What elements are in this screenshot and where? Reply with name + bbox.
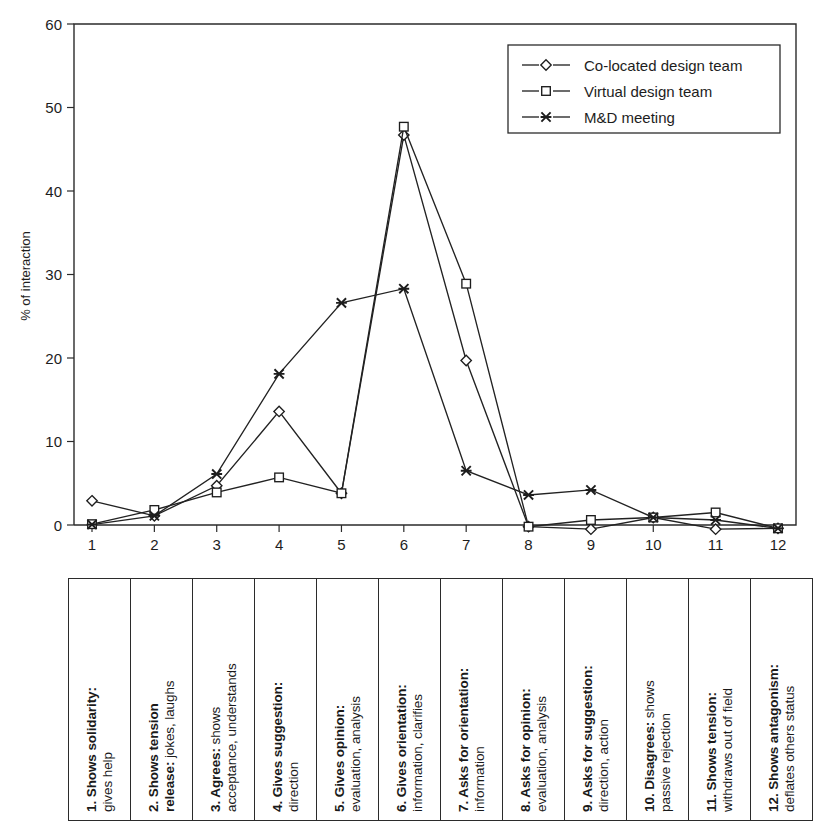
- y-tick-label: 20: [45, 350, 62, 367]
- category-number-line1: 10. Disagrees: shows: [641, 680, 657, 812]
- series-line-1: [92, 135, 778, 529]
- marker-diamond-1-7: [461, 355, 471, 365]
- category-description: gives help: [100, 687, 116, 812]
- series-line-3: [92, 289, 778, 529]
- x-tick-label: 9: [587, 536, 595, 553]
- x-tick-label: 5: [337, 536, 345, 553]
- category-number: 6. Gives orientation:: [393, 684, 409, 812]
- y-tick-label: 40: [45, 183, 62, 200]
- category-desc-line2: passive rejection: [658, 680, 674, 812]
- category-label-1: 1. Shows solidarity:gives help: [83, 687, 116, 812]
- y-axis-title: % of interaction: [18, 231, 33, 321]
- category-number: 1. Shows solidarity:: [83, 687, 99, 812]
- category-label-2: 2. Shows tensionrelease: jokes, laughs: [145, 681, 178, 812]
- x-tick-label: 2: [150, 536, 158, 553]
- category-cell-2: 2. Shows tensionrelease: jokes, laughs: [131, 579, 193, 820]
- category-cell-6: 6. Gives orientation:information, clarif…: [379, 579, 441, 820]
- category-number: 11. Shows tension:: [703, 688, 719, 812]
- marker-x-3-8: [523, 490, 534, 499]
- category-cell-3: 3. Agrees: showsacceptance, understands: [193, 579, 255, 820]
- y-tick-label: 10: [45, 433, 62, 450]
- category-label-4: 4. Gives suggestion:direction: [269, 682, 302, 812]
- category-number: 7. Asks for orientation:: [455, 668, 471, 812]
- category-cell-10: 10. Disagrees: showspassive rejection: [627, 579, 689, 820]
- figure-container: 0102030405060% of interaction12345678910…: [0, 0, 819, 835]
- series-line-2: [92, 127, 778, 529]
- category-label-3: 3. Agrees: showsacceptance, understands: [207, 663, 240, 812]
- category-label-10: 10. Disagrees: showspassive rejection: [641, 680, 674, 812]
- legend-label-3: M&D meeting: [584, 109, 675, 126]
- x-tick-label: 6: [400, 536, 408, 553]
- marker-square-2-3: [212, 488, 221, 497]
- marker-x-3-4: [274, 369, 285, 378]
- marker-x-3-9: [586, 485, 597, 494]
- y-axis: 0102030405060% of interaction: [18, 16, 74, 534]
- y-tick-label: 50: [45, 99, 62, 116]
- marker-diamond-1-1: [87, 496, 97, 506]
- y-tick-label: 30: [45, 266, 62, 283]
- category-label-8: 8. Asks for opinion:evaluation, analysis: [517, 688, 550, 812]
- category-description: direction, action: [596, 666, 612, 812]
- category-cell-5: 5. Gives opinion:evaluation, analysis: [317, 579, 379, 820]
- marker-square-2-5: [337, 489, 346, 498]
- category-definition-table: 1. Shows solidarity:gives help2. Shows t…: [68, 578, 813, 821]
- category-number: 12. Shows antagonism:: [765, 664, 781, 812]
- x-tick-label: 10: [645, 536, 662, 553]
- legend: Co-located design teamVirtual design tea…: [508, 45, 780, 133]
- series-3: [87, 284, 784, 533]
- category-label-7: 7. Asks for orientation:information: [455, 668, 488, 812]
- x-axis: 123456789101112: [88, 525, 787, 553]
- category-description: evaluation, analysis: [534, 688, 550, 812]
- category-number-line1: 2. Shows tension: [145, 681, 161, 812]
- marker-square-legend-2: [542, 87, 551, 96]
- category-description: withdraws out of field: [720, 688, 736, 812]
- x-tick-label: 1: [88, 536, 96, 553]
- category-cell-1: 1. Shows solidarity:gives help: [69, 579, 131, 820]
- category-label-9: 9. Asks for suggestion:direction, action: [579, 666, 612, 812]
- marker-square-2-8: [524, 522, 533, 531]
- category-cell-11: 11. Shows tension:withdraws out of field: [689, 579, 751, 820]
- marker-x-3-5: [336, 298, 347, 307]
- category-number-line2: release: jokes, laughs: [162, 681, 178, 812]
- legend-label-2: Virtual design team: [584, 83, 712, 100]
- series-1: [87, 130, 783, 535]
- category-label-12: 12. Shows antagonism:deflates others sta…: [765, 664, 798, 812]
- category-number: 8. Asks for opinion:: [517, 688, 533, 812]
- category-description: information: [472, 668, 488, 812]
- marker-square-2-11: [711, 508, 720, 517]
- category-description: evaluation, analysis: [348, 696, 364, 812]
- marker-square-2-9: [587, 516, 596, 525]
- category-number: 5. Gives opinion:: [331, 696, 347, 812]
- category-cell-12: 12. Shows antagonism:deflates others sta…: [751, 579, 812, 820]
- x-tick-label: 3: [213, 536, 221, 553]
- y-tick-label: 0: [54, 517, 62, 534]
- category-number: 4. Gives suggestion:: [269, 682, 285, 812]
- marker-x-3-7: [461, 466, 472, 475]
- category-number-line1: 3. Agrees: shows: [207, 663, 223, 812]
- category-label-6: 6. Gives orientation:information, clarif…: [393, 684, 426, 812]
- x-tick-label: 12: [770, 536, 787, 553]
- category-description: direction: [286, 682, 302, 812]
- category-cell-7: 7. Asks for orientation:information: [441, 579, 503, 820]
- category-desc-line2: acceptance, understands: [224, 663, 240, 812]
- category-description: deflates others status: [782, 664, 798, 812]
- category-description: information, clarifies: [410, 684, 426, 812]
- series-2: [88, 122, 783, 532]
- x-tick-label: 8: [524, 536, 532, 553]
- category-label-5: 5. Gives opinion:evaluation, analysis: [331, 696, 364, 812]
- category-cell-4: 4. Gives suggestion:direction: [255, 579, 317, 820]
- x-tick-label: 7: [462, 536, 470, 553]
- x-tick-label: 11: [708, 536, 724, 553]
- marker-square-2-7: [462, 279, 471, 288]
- category-cell-8: 8. Asks for opinion:evaluation, analysis: [503, 579, 565, 820]
- marker-square-2-6: [400, 122, 409, 131]
- category-number: 9. Asks for suggestion:: [579, 666, 595, 812]
- category-cell-9: 9. Asks for suggestion:direction, action: [565, 579, 627, 820]
- marker-x-3-3: [211, 469, 222, 478]
- category-label-11: 11. Shows tension:withdraws out of field: [703, 688, 736, 812]
- marker-square-2-4: [275, 473, 284, 482]
- marker-x-3-6: [398, 284, 409, 293]
- x-tick-label: 4: [275, 536, 283, 553]
- y-tick-label: 60: [45, 16, 62, 33]
- legend-label-1: Co-located design team: [584, 57, 742, 74]
